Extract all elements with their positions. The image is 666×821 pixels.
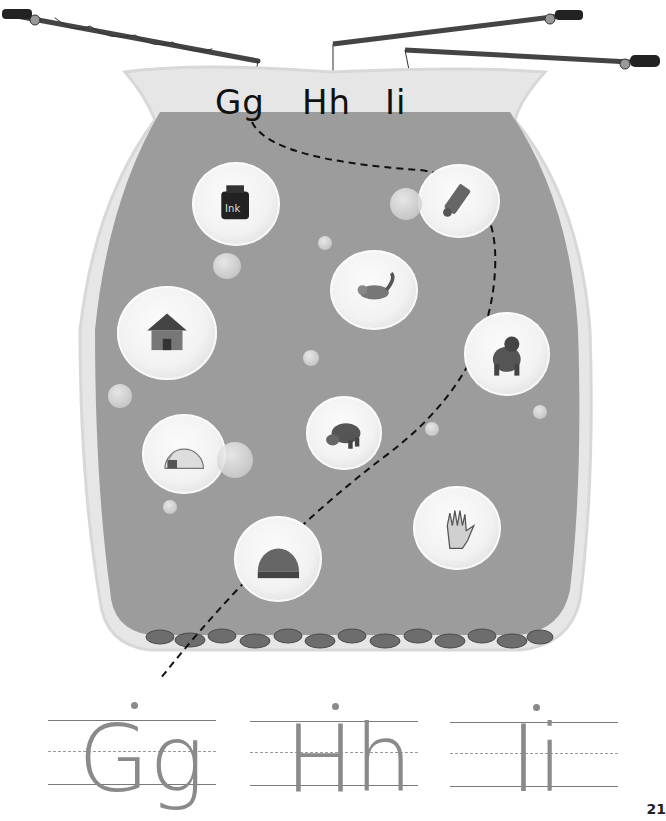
hand-icon	[431, 503, 484, 553]
jar-letter-i: Ii	[385, 82, 406, 122]
bubble-grass[interactable]	[234, 516, 322, 602]
bubble-hand[interactable]	[413, 486, 501, 570]
trace-letter-i[interactable]: Ii	[510, 714, 563, 806]
grass-patch-icon	[252, 533, 305, 585]
jar-letter-g: Gg	[215, 82, 265, 122]
bubble-ink[interactable]: Ink	[192, 162, 280, 246]
bubble-decor	[425, 422, 439, 436]
bubble-decor	[213, 253, 241, 279]
bubble-decor	[163, 500, 177, 514]
bubble-igloo[interactable]	[142, 414, 226, 494]
bubble-paint-tube[interactable]	[418, 164, 500, 238]
paint-tube-icon	[434, 179, 483, 223]
igloo-icon	[159, 430, 209, 478]
gorilla-icon	[481, 329, 533, 379]
ink-bottle-icon: Ink	[210, 179, 263, 229]
hippo-icon	[321, 411, 367, 455]
trace-letter-h[interactable]: Hh	[285, 714, 413, 806]
bubble-decor	[318, 236, 332, 250]
svg-text:Ink: Ink	[225, 203, 240, 214]
bubble-decor	[533, 405, 547, 419]
house-icon	[137, 305, 197, 361]
bubble-decor	[390, 188, 422, 220]
bubble-gorilla[interactable]	[464, 312, 550, 396]
bubble-iguana[interactable]	[330, 250, 418, 330]
bubble-decor	[303, 350, 319, 366]
iguana-icon	[348, 266, 401, 314]
bubble-decor	[108, 384, 132, 408]
jar-letter-h: Hh	[302, 82, 351, 122]
bubble-decor	[217, 442, 253, 478]
bubble-hippo[interactable]	[306, 396, 382, 470]
trace-letter-g[interactable]: Gg	[78, 714, 205, 806]
page-number: 21	[647, 801, 666, 817]
bubble-house[interactable]	[117, 286, 217, 380]
